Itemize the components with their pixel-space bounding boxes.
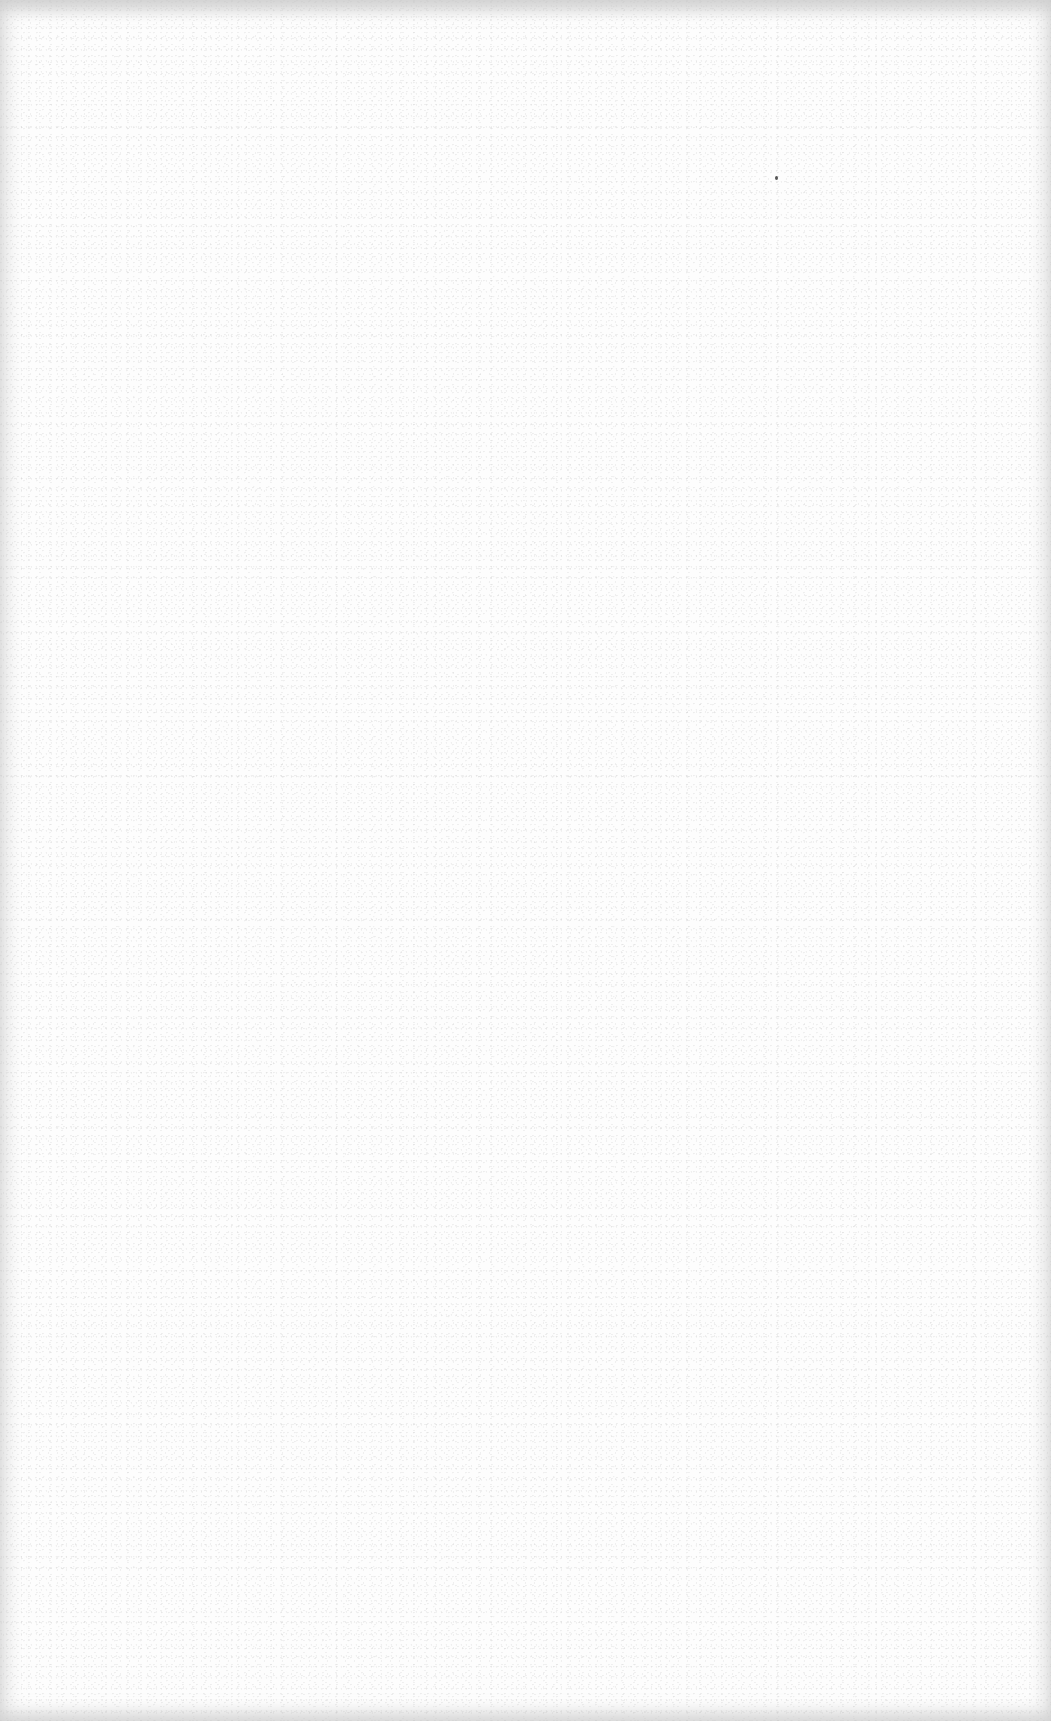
- scan-edge-shading: [0, 0, 1051, 1721]
- scan-speck: [775, 176, 778, 180]
- paper-noise: [0, 0, 1051, 1721]
- blank-page: [0, 0, 1051, 1721]
